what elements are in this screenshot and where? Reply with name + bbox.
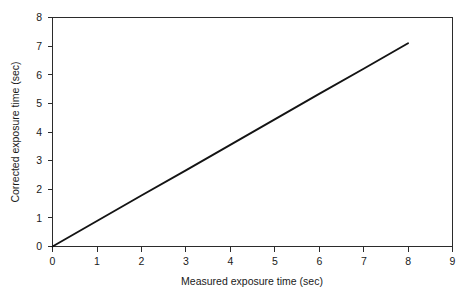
y-axis-tick-labels: 0 1 2 3 4 5 6 7 8 [36,11,42,252]
y-tick-label: 7 [36,40,42,52]
y-tick-label: 2 [36,183,42,195]
y-axis-ticks [48,18,53,247]
y-tick-label: 5 [36,97,42,109]
chart-figure: 0 1 2 3 4 5 6 7 8 0 1 2 3 4 5 6 7 8 9 Me… [0,0,473,300]
x-axis-tick-labels: 0 1 2 3 4 5 6 7 8 9 [50,255,456,267]
y-tick-label: 1 [36,212,42,224]
data-series-group [53,43,409,246]
x-tick-label: 0 [50,255,56,267]
y-axis-title: Corrected exposure time (sec) [9,61,21,202]
y-tick-label: 6 [36,69,42,81]
x-tick-label: 8 [405,255,411,267]
y-tick-label: 3 [36,154,42,166]
x-tick-label: 2 [138,255,144,267]
x-tick-label: 3 [183,255,189,267]
x-tick-label: 5 [272,255,278,267]
x-axis-ticks [53,247,453,252]
x-axis-title: Measured exposure time (sec) [181,275,323,287]
y-tick-label: 8 [36,11,42,23]
y-tick-label: 0 [36,240,42,252]
x-tick-label: 1 [94,255,100,267]
x-tick-label: 7 [361,255,367,267]
data-line-series-0 [53,43,409,246]
y-tick-label: 4 [36,126,42,138]
x-tick-label: 4 [227,255,233,267]
x-tick-label: 6 [316,255,322,267]
line-chart: 0 1 2 3 4 5 6 7 8 0 1 2 3 4 5 6 7 8 9 Me… [0,0,473,300]
x-tick-label: 9 [450,255,456,267]
